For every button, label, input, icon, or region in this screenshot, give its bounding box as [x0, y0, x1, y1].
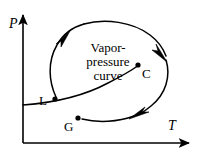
point-L-label: L — [39, 94, 47, 107]
temperature-axis-label: T — [168, 119, 176, 133]
vapor-pressure-curve-annotation: Vapor- pressure curve — [78, 41, 138, 83]
point-C-label: C — [142, 67, 151, 80]
loop-arrowhead-lower-right — [129, 107, 149, 119]
vapor-pressure-diagram: P T L G C Vapor- pressure curve — [0, 0, 197, 154]
annotation-line-3: curve — [78, 69, 138, 83]
loop-segment-bottom — [82, 116, 134, 121]
pressure-axis-label: P — [9, 17, 18, 31]
point-G-dot — [75, 115, 80, 120]
annotation-line-1: Vapor- — [78, 41, 138, 55]
annotation-line-2: pressure — [78, 55, 138, 69]
point-L-dot — [52, 96, 57, 101]
point-G-label: G — [64, 120, 73, 133]
loop-arrowhead-upper-left — [56, 31, 70, 47]
